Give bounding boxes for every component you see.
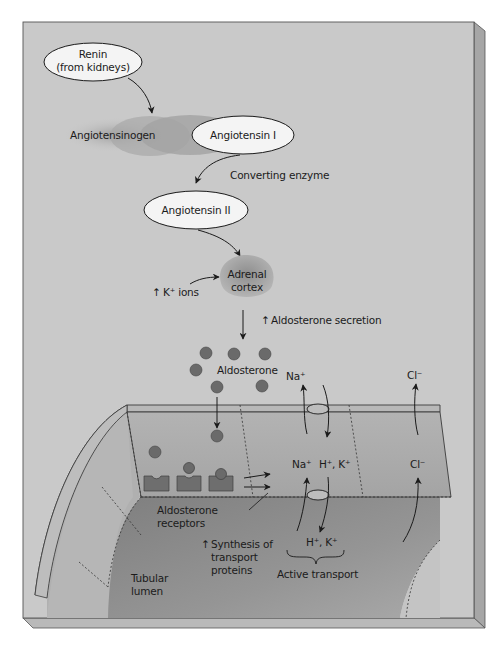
synthesis-label-3: proteins — [211, 564, 252, 576]
tubule-cross-section — [35, 405, 451, 618]
cl-top-label: Cl⁻ — [407, 369, 422, 381]
aldosterone-molecule-inside — [211, 430, 223, 442]
aldosterone-molecule-free — [149, 446, 161, 458]
na-mid-label: Na⁺ — [292, 458, 311, 470]
k-ions-up-arrow: ↑ — [152, 286, 161, 298]
tubular-lumen-label-2: lumen — [131, 585, 163, 597]
cl-mid-label: Cl⁻ — [410, 458, 425, 470]
bottom-channel — [307, 490, 329, 500]
converting-enzyme-label: Converting enzyme — [230, 169, 329, 181]
adrenal-label: Adrenal — [228, 268, 267, 280]
renin-label: Renin — [79, 48, 108, 60]
cortex-label: cortex — [231, 281, 263, 293]
hk-bottom-label: H⁺, K⁺ — [306, 536, 337, 548]
secretion-up-arrow: ↑ — [261, 314, 270, 326]
renin-source-label: (from kidneys) — [56, 61, 130, 73]
aldosterone-secretion-label: Aldosterone secretion — [271, 314, 381, 326]
receptor-partial — [177, 476, 201, 491]
synthesis-label-1: Synthesis of — [211, 538, 273, 550]
synthesis-label-2: transport — [211, 551, 258, 563]
renin-node: Renin (from kidneys) — [44, 43, 142, 81]
na-top-label: Na⁺ — [286, 370, 305, 382]
tubular-lumen-label-1: Tubular — [130, 572, 169, 584]
k-ions-label: K⁺ ions — [163, 286, 199, 298]
angiotensinogen-label: Angiotensinogen — [70, 129, 155, 141]
aldosterone-label: Aldosterone — [217, 364, 278, 376]
top-channel — [307, 404, 329, 414]
angiotensin-i-label: Angiotensin I — [210, 129, 276, 141]
synthesis-up-arrow: ↑ — [201, 538, 210, 550]
active-transport-label: Active transport — [277, 568, 358, 580]
diagram-canvas: Angiotensinogen Renin (from kidneys) Ang… — [0, 0, 499, 645]
adrenal-cortex: Adrenal cortex — [220, 255, 274, 297]
receptors-label-2: receptors — [157, 517, 205, 529]
hk-mid-label: H⁺, K⁺ — [319, 458, 350, 470]
angiotensin-ii-node: Angiotensin II — [144, 191, 248, 229]
angiotensin-ii-label: Angiotensin II — [162, 204, 231, 216]
angiotensin-i-node: Angiotensin I — [192, 116, 294, 154]
receptors-label-1: Aldosterone — [157, 504, 218, 516]
